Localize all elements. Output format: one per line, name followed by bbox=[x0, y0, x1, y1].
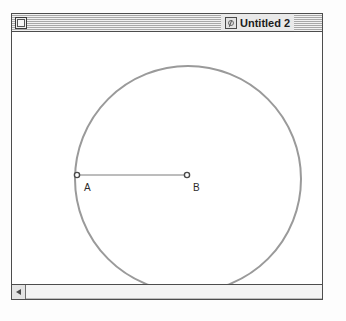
window-title: Untitled 2 bbox=[240, 17, 290, 29]
horizontal-scrollbar[interactable] bbox=[12, 284, 322, 299]
window-title-cluster: Untitled 2 bbox=[221, 14, 294, 32]
scroll-left-button[interactable] bbox=[12, 285, 26, 299]
close-box[interactable] bbox=[15, 17, 27, 29]
window-title-bar[interactable]: Untitled 2 bbox=[12, 14, 322, 32]
point-a[interactable] bbox=[74, 172, 79, 177]
point-b-label: B bbox=[193, 182, 200, 193]
application-window: Untitled 2 A B bbox=[11, 13, 323, 300]
point-a-label: A bbox=[84, 182, 91, 193]
triangle-left-icon bbox=[16, 289, 21, 295]
sketch-document-icon bbox=[225, 17, 237, 29]
scrollbar-track[interactable] bbox=[26, 285, 322, 299]
screen-background: Untitled 2 A B bbox=[0, 0, 346, 321]
point-b[interactable] bbox=[184, 172, 189, 177]
geometry-drawing: A B bbox=[12, 33, 322, 284]
sketch-canvas[interactable]: A B bbox=[12, 33, 322, 284]
